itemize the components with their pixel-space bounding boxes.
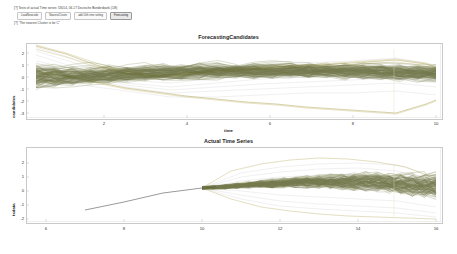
- chart-2-xtick: 6: [45, 226, 47, 231]
- chart-2-plot-area: [26, 147, 441, 222]
- notebook-button-row: LoadNewcode NearestCluster add 10th time…: [17, 12, 164, 20]
- chart-1-xtick: 10: [434, 121, 439, 126]
- chart-1-ytick: -2: [12, 99, 24, 104]
- chart-2-ytick: 1: [14, 174, 24, 179]
- chart-1-ytick: -3: [12, 111, 24, 116]
- chart-2-xtick: 10: [200, 226, 205, 231]
- chart-1-title: ForecastingCandidates: [0, 34, 457, 40]
- chart-2-xtick: 16: [434, 226, 439, 231]
- chart-2-xtick: 12: [278, 226, 283, 231]
- chart-2-ytick: 2: [14, 160, 24, 165]
- chart-1-xtick: 4: [186, 121, 188, 126]
- chart-2-ytick: -2: [12, 216, 24, 221]
- chart-1-ytick: 0: [14, 75, 24, 80]
- chart-1-xtick: 8: [352, 121, 354, 126]
- chart-2-xtick: 8: [123, 226, 125, 231]
- chart-1-ytick: -1: [12, 87, 24, 92]
- notebook-header: [?] Tests of actual Time series: 53014, …: [14, 6, 164, 26]
- notebook-output-line-2: [?] "The nearest Cluster is for C": [14, 21, 164, 26]
- nearest-cluster-button[interactable]: NearestCluster: [45, 12, 71, 20]
- notebook-page: [?] Tests of actual Time series: 53014, …: [0, 0, 457, 254]
- notebook-output-line-1: [?] Tests of actual Time series: 53014, …: [14, 6, 164, 11]
- chart-2-ytick: 0: [14, 188, 24, 193]
- chart-1-x-axis-label: time: [0, 128, 457, 133]
- chart-1-xtick: 6: [269, 121, 271, 126]
- chart-1-ytick: 2: [14, 51, 24, 56]
- chart-2-xtick: 14: [356, 226, 361, 231]
- chart-2-ytick: -1: [12, 202, 24, 207]
- chart-1-plot-area: [26, 43, 441, 118]
- load-newcode-button[interactable]: LoadNewcode: [17, 12, 42, 20]
- chart-1-xtick: 2: [103, 121, 105, 126]
- forecasting-candidates-chart: ForecastingCandidates candidates time 2 …: [0, 34, 457, 136]
- chart-2-title: Actual Time Series: [0, 138, 457, 144]
- chart-1-ytick: 1: [14, 63, 24, 68]
- add-time-setting-button[interactable]: add 10th time setting: [74, 12, 107, 20]
- observed-history-line: [85, 187, 216, 210]
- forecasting-button[interactable]: Forecasting: [110, 12, 132, 20]
- actual-time-series-chart: Actual Time Series tsdata 2 1 0 -1 -2 6 …: [0, 138, 457, 248]
